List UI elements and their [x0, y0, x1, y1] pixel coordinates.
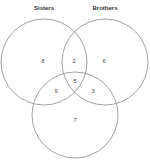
brothers-label: Brothers: [92, 5, 118, 11]
region-all-three: 5: [73, 78, 76, 84]
region-sisters-only: 8: [41, 58, 44, 64]
region-brothers-only: 6: [102, 58, 105, 64]
region-sisters-brothers: 2: [72, 58, 75, 64]
region-brothers-third: 3: [91, 88, 94, 94]
sisters-label: Sisters: [34, 5, 55, 11]
venn-diagram: Sisters Brothers 8 2 6 5 9 3 7: [0, 0, 150, 167]
region-third-only: 7: [73, 117, 76, 123]
region-sisters-third: 9: [54, 88, 57, 94]
third-set-circle: [32, 72, 118, 158]
